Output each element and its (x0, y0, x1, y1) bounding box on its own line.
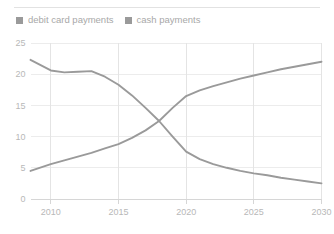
y-tick-labels: 0510152025 (15, 38, 25, 204)
series-line-cash-payments (31, 60, 322, 184)
y-tick-label: 15 (15, 101, 25, 111)
chart-svg: 0510152025 20102015202020252030 (0, 0, 334, 234)
y-tick-label: 5 (20, 163, 25, 173)
x-tick-label: 2010 (41, 207, 61, 217)
x-tick-labels: 20102015202020252030 (41, 207, 332, 217)
x-tick-label: 2020 (176, 207, 196, 217)
vertical-gridlines (51, 43, 322, 199)
plot-area: 0510152025 20102015202020252030 (0, 0, 334, 234)
y-tick-label: 20 (15, 69, 25, 79)
y-tick-label: 10 (15, 132, 25, 142)
x-tick-label: 2015 (108, 207, 128, 217)
series-lines (31, 60, 322, 184)
x-axis (51, 199, 322, 204)
series-line-debit-card-payments (31, 62, 322, 171)
y-tick-label: 0 (20, 194, 25, 204)
line-chart: Forecast: share of payments by method (p… (0, 0, 334, 234)
x-tick-label: 2030 (311, 207, 331, 217)
x-tick-label: 2025 (244, 207, 264, 217)
y-tick-label: 25 (15, 38, 25, 48)
gridlines (31, 43, 322, 199)
